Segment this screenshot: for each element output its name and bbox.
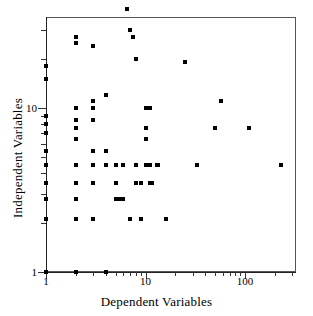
- data-point: [134, 181, 138, 185]
- data-point: [148, 163, 152, 167]
- data-point: [104, 163, 108, 167]
- data-point: [74, 197, 78, 201]
- data-point: [91, 106, 95, 110]
- data-point: [139, 181, 143, 185]
- y-tick-minor: [41, 194, 46, 195]
- data-point: [44, 131, 48, 135]
- data-point: [114, 163, 118, 167]
- y-tick-label: 10: [26, 103, 37, 114]
- data-point: [156, 163, 160, 167]
- data-point: [144, 126, 148, 130]
- data-point: [74, 217, 78, 221]
- y-tick-major: [38, 108, 46, 109]
- y-tick-minor: [41, 157, 46, 158]
- x-tick-minor: [136, 272, 137, 276]
- data-point: [44, 64, 48, 68]
- data-point: [219, 99, 223, 103]
- data-point: [74, 163, 78, 167]
- data-point: [134, 163, 138, 167]
- x-tick-minor: [123, 272, 124, 276]
- data-point: [164, 217, 168, 221]
- data-point: [121, 197, 125, 201]
- data-point: [104, 149, 108, 153]
- y-tick-minor: [41, 59, 46, 60]
- x-tick-minor: [130, 272, 131, 276]
- x-tick-minor: [215, 272, 216, 276]
- data-point: [125, 7, 129, 11]
- x-tick-minor: [205, 272, 206, 276]
- data-point: [44, 163, 48, 167]
- data-point: [44, 114, 48, 118]
- scatter-plot-figure: 110100 110 Dependent Variables Independe…: [0, 0, 313, 316]
- data-point: [44, 149, 48, 153]
- data-point: [104, 93, 108, 97]
- data-point: [150, 181, 154, 185]
- data-point: [91, 118, 95, 122]
- data-point: [131, 35, 135, 39]
- x-tick-minor: [93, 272, 94, 276]
- x-axis-line: [46, 272, 296, 273]
- y-tick-minor: [41, 223, 46, 224]
- data-point: [195, 163, 199, 167]
- x-tick-minor: [223, 272, 224, 276]
- x-tick-minor: [292, 272, 293, 276]
- y-tick-minor: [41, 173, 46, 174]
- plot-area-frame: [46, 17, 296, 272]
- x-tick-minor: [193, 272, 194, 276]
- y-axis-title: Independent Variables: [10, 78, 26, 238]
- x-tick-label: 10: [140, 276, 151, 287]
- data-point: [74, 118, 78, 122]
- data-point: [91, 149, 95, 153]
- data-point: [121, 163, 125, 167]
- x-tick-label: 1: [43, 276, 49, 287]
- x-tick-minor: [275, 272, 276, 276]
- data-point: [114, 197, 118, 201]
- x-tick-minor: [116, 272, 117, 276]
- data-point: [91, 181, 95, 185]
- data-point: [74, 137, 78, 141]
- data-point: [74, 270, 78, 274]
- data-point: [91, 163, 95, 167]
- y-tick-label: 1: [32, 267, 38, 278]
- data-point: [74, 35, 78, 39]
- data-point: [44, 270, 48, 274]
- data-point: [114, 181, 118, 185]
- x-tick-minor: [230, 272, 231, 276]
- data-point: [134, 57, 138, 61]
- data-point: [44, 217, 48, 221]
- y-tick-minor: [41, 30, 46, 31]
- data-point: [213, 126, 217, 130]
- data-point: [44, 122, 48, 126]
- data-point: [74, 106, 78, 110]
- data-point: [91, 44, 95, 48]
- data-point: [144, 137, 148, 141]
- data-point: [128, 28, 132, 32]
- data-point: [44, 181, 48, 185]
- y-tick-minor: [41, 144, 46, 145]
- data-point: [91, 217, 95, 221]
- data-point: [279, 163, 283, 167]
- data-point: [74, 181, 78, 185]
- data-point: [104, 270, 108, 274]
- x-tick-minor: [175, 272, 176, 276]
- data-point: [74, 126, 78, 130]
- y-axis-line: [46, 17, 47, 273]
- data-point: [183, 60, 187, 64]
- x-tick-label: 100: [237, 276, 254, 287]
- data-point: [74, 41, 78, 45]
- data-point: [44, 77, 48, 81]
- x-axis-title: Dependent Variables: [0, 294, 313, 310]
- data-point: [148, 106, 152, 110]
- data-point: [247, 126, 251, 130]
- data-point: [139, 217, 143, 221]
- data-point: [44, 197, 48, 201]
- data-point: [128, 217, 132, 221]
- data-point: [91, 99, 95, 103]
